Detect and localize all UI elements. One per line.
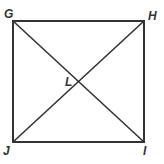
vertex-label-j: J [3, 144, 10, 158]
vertex-label-h: H [148, 9, 157, 23]
square-diagram: G H I J L [0, 0, 164, 164]
vertex-label-g: G [4, 7, 13, 21]
vertex-label-i: I [143, 144, 147, 158]
intersection-label-l: L [65, 75, 72, 89]
